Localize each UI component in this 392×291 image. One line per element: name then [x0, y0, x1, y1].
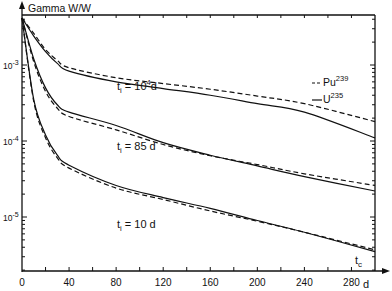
y-axis-label: Gamma W/W — [28, 2, 91, 14]
curve-annotation: ti = 104d — [117, 78, 157, 95]
x-axis-name: tc — [355, 254, 362, 269]
y-axis-arrow — [19, 1, 25, 9]
y-tick-label: 10-3 — [3, 59, 19, 71]
y-tick-label: 10-4 — [3, 135, 19, 147]
x-tick-label: 80 — [111, 277, 123, 288]
x-tick-label: 280 — [343, 277, 360, 288]
x-axis-arrow — [382, 268, 390, 274]
curve-annotation: ti = 85 d — [117, 140, 156, 155]
legend-label: Pu239 — [323, 74, 348, 88]
x-tick-label: 240 — [296, 277, 313, 288]
x-axis-unit: d — [363, 278, 369, 290]
curves — [22, 18, 375, 252]
x-tick-label: 0 — [19, 277, 25, 288]
legend: Pu239U235 — [312, 74, 348, 105]
x-tick-label: 120 — [155, 277, 172, 288]
curve-annotation: ti = 10 d — [117, 218, 156, 233]
x-tick-label: 40 — [64, 277, 76, 288]
series-line — [22, 18, 375, 122]
x-axis-name-text: tc — [355, 254, 362, 269]
x-tick-label: 200 — [249, 277, 266, 288]
ticks: 0408012016020024028010-310-410-5 — [3, 15, 375, 288]
x-tick-label: 160 — [202, 277, 219, 288]
legend-label: U235 — [323, 91, 343, 105]
axes — [19, 1, 390, 274]
chart: 0408012016020024028010-310-410-5 Gamma W… — [0, 0, 392, 291]
annotations: ti = 104dti = 85 dti = 10 d — [117, 78, 157, 233]
y-tick-label: 10-5 — [3, 211, 19, 223]
series-line — [22, 18, 375, 252]
series-line — [22, 18, 375, 250]
